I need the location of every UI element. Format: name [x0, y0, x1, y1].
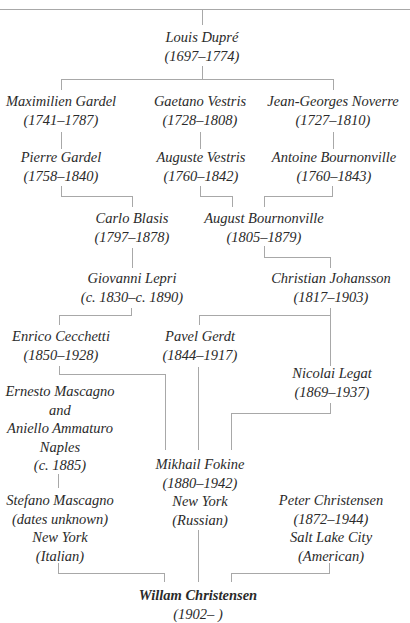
node-louis-dupre: Louis Dupré (1697–1774) — [165, 28, 240, 65]
node-stefano-mascagno: Stefano Mascagno (dates unknown) New Yor… — [6, 491, 114, 565]
node-style: (Italian) — [6, 547, 114, 566]
node-christian-johansson: Christian Johansson (1817–1903) — [271, 269, 391, 306]
node-dates: (1727–1810) — [267, 111, 398, 130]
node-city: Salt Lake City — [279, 528, 383, 547]
node-auguste-vestris: Auguste Vestris (1760–1842) — [156, 148, 245, 185]
node-dates: (1844–1917) — [163, 346, 238, 365]
node-giovanni-lepri: Giovanni Lepri (c. 1830–c. 1890) — [81, 269, 183, 306]
node-name: Pierre Gardel — [21, 148, 102, 167]
node-name: Ernesto Mascagno — [5, 382, 114, 401]
node-dates: (1760–1843) — [272, 167, 396, 186]
node-peter-christensen: Peter Christensen (1872–1944) Salt Lake … — [279, 491, 383, 565]
node-dates: (1880–1942) — [156, 474, 245, 493]
node-pavel-gerdt: Pavel Gerdt (1844–1917) — [163, 327, 238, 364]
node-dates: (1902– ) — [139, 605, 257, 623]
node-antoine-bournonville: Antoine Bournonville (1760–1843) — [272, 148, 396, 185]
node-dates: (1697–1774) — [165, 47, 240, 66]
node-name: Jean-Georges Noverre — [267, 92, 398, 111]
node-name: Peter Christensen — [279, 491, 383, 510]
node-nicolai-legat: Nicolai Legat (1869–1937) — [292, 364, 371, 401]
node-august-bournonville: August Bournonville (1805–1879) — [204, 209, 324, 246]
node-jean-georges-noverre: Jean-Georges Noverre (1727–1810) — [267, 92, 398, 129]
node-name: Carlo Blasis — [95, 209, 170, 228]
node-city: New York — [156, 492, 245, 511]
node-name: Pavel Gerdt — [163, 327, 238, 346]
node-dates: (1817–1903) — [271, 288, 391, 307]
node-gaetano-vestris: Gaetano Vestris (1728–1808) — [154, 92, 246, 129]
node-city: New York — [6, 528, 114, 547]
node-willam-christensen: Willam Christensen (1902– ) — [139, 586, 257, 623]
node-name: Willam Christensen — [139, 586, 257, 605]
node-name: Mikhail Fokine — [156, 455, 245, 474]
node-dates: (1872–1944) — [279, 510, 383, 529]
node-name: Enrico Cecchetti — [12, 327, 110, 346]
node-dates: (1850–1928) — [12, 346, 110, 365]
node-dates: (1741–1787) — [6, 111, 116, 130]
node-dates: (c. 1830–c. 1890) — [81, 288, 183, 307]
node-dates: (1805–1879) — [204, 228, 324, 247]
node-maximilien-gardel: Maximilien Gardel (1741–1787) — [6, 92, 116, 129]
node-dates: (c. 1885) — [5, 456, 114, 475]
node-ernesto-mascagno-aniello-ammaturo: Ernesto Mascagno and Aniello Ammaturo Na… — [5, 382, 114, 475]
node-name-2: Aniello Ammaturo — [5, 419, 114, 438]
node-dates: (1760–1842) — [156, 167, 245, 186]
node-mikhail-fokine: Mikhail Fokine (1880–1942) New York (Rus… — [156, 455, 245, 529]
node-enrico-cecchetti: Enrico Cecchetti (1850–1928) — [12, 327, 110, 364]
node-name: Stefano Mascagno — [6, 491, 114, 510]
node-style: (American) — [279, 547, 383, 566]
node-name: Louis Dupré — [165, 28, 240, 47]
node-conjunction: and — [5, 401, 114, 420]
node-name: Maximilien Gardel — [6, 92, 116, 111]
node-dates: (1869–1937) — [292, 383, 371, 402]
node-name: Auguste Vestris — [156, 148, 245, 167]
node-dates: (1797–1878) — [95, 228, 170, 247]
node-name: Giovanni Lepri — [81, 269, 183, 288]
node-style: (Russian) — [156, 511, 245, 530]
node-name: Nicolai Legat — [292, 364, 371, 383]
node-name: Christian Johansson — [271, 269, 391, 288]
node-dates: (dates unknown) — [6, 510, 114, 529]
node-carlo-blasis: Carlo Blasis (1797–1878) — [95, 209, 170, 246]
node-name: August Bournonville — [204, 209, 324, 228]
node-name: Gaetano Vestris — [154, 92, 246, 111]
node-dates: (1728–1808) — [154, 111, 246, 130]
node-city: Naples — [5, 438, 114, 457]
node-name: Antoine Bournonville — [272, 148, 396, 167]
node-dates: (1758–1840) — [21, 167, 102, 186]
node-pierre-gardel: Pierre Gardel (1758–1840) — [21, 148, 102, 185]
